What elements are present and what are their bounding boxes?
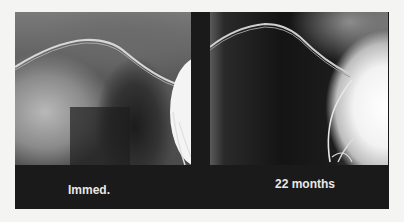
panel-label-immediate: Immed. xyxy=(68,183,110,197)
xray-panel-immediate xyxy=(15,12,191,165)
xray-panel-22-months xyxy=(210,12,388,165)
catheter-lead-icon xyxy=(15,12,191,165)
catheter-lead-icon xyxy=(210,12,388,165)
panel-label-22-months: 22 months xyxy=(275,177,335,191)
